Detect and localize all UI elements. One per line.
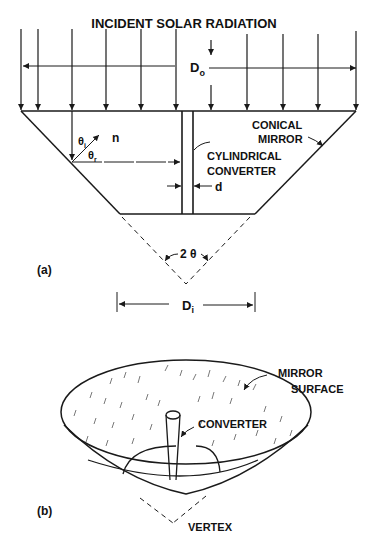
title-incident-solar-radiation: INCIDENT SOLAR RADIATION xyxy=(91,16,276,31)
inner-diameter-label: Di xyxy=(182,298,194,315)
mirror-lower-rim xyxy=(88,460,258,476)
outer-diameter-dimension: Do xyxy=(23,60,356,78)
conical-mirror-label-1: CONICAL xyxy=(252,119,302,131)
outer-diameter-label: Do xyxy=(190,60,205,78)
incidence-angle-label: θi xyxy=(78,135,86,149)
cone-sides xyxy=(64,425,308,494)
normal-label: n xyxy=(112,131,119,145)
incident-rays xyxy=(21,29,356,110)
mirror-surface-label-2: SURFACE xyxy=(291,383,344,395)
mirror-rim xyxy=(61,360,311,464)
converter-width-label: d xyxy=(215,180,222,194)
converter-leader-b xyxy=(181,427,194,437)
cylindrical-converter-label-1: CYLINDRICAL xyxy=(207,150,282,162)
mirror-surface-label-1: MIRROR xyxy=(278,367,323,379)
figure-b: MIRROR SURFACE CONVERTER VERTEX (b) xyxy=(37,360,344,533)
conical-mirror-label-2: MIRROR xyxy=(258,133,303,145)
cone-angle-arrow-right xyxy=(201,254,208,261)
panel-label-b: (b) xyxy=(37,504,52,518)
cylindrical-converter xyxy=(182,111,193,214)
figure-a: INCIDENT SOLAR RADIATION Do xyxy=(21,16,356,315)
vertex-extension xyxy=(140,496,206,523)
mirror-surface-leader xyxy=(244,375,267,390)
mirror-leader xyxy=(308,137,323,146)
converter-width-dimension: d xyxy=(167,180,222,194)
vertex-label: VERTEX xyxy=(188,521,233,533)
cone-angle-arrow-left xyxy=(165,254,178,261)
conical-mirror-outline xyxy=(21,111,356,214)
converter-leader xyxy=(194,142,210,150)
cone-angle-label: 2 θ xyxy=(180,247,197,261)
reflection-angle-label: θr xyxy=(88,149,97,163)
inner-diameter-dimension: Di xyxy=(117,292,255,315)
concentrator-diagram: INCIDENT SOLAR RADIATION Do xyxy=(0,0,368,543)
panel-label-a: (a) xyxy=(37,263,52,277)
cylindrical-converter-label-2: CONVERTER xyxy=(207,165,276,177)
converter-label: CONVERTER xyxy=(198,418,267,430)
reflection-detail: θi θr n xyxy=(72,111,180,163)
